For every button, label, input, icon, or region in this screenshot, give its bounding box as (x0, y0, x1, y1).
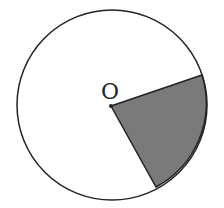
center-label: O (101, 79, 119, 104)
center-point (109, 104, 113, 108)
circle-sector-diagram: O (0, 0, 224, 208)
